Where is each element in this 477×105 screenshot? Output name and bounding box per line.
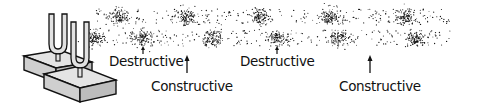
annotation-arrows xyxy=(0,0,477,105)
interference-diagram: Destructive Constructive Destructive Con… xyxy=(0,0,477,105)
arrow-constructive-1-icon xyxy=(185,55,190,73)
arrow-destructive-2-icon xyxy=(275,46,279,54)
arrow-constructive-2-icon xyxy=(368,55,373,73)
arrow-destructive-1-icon xyxy=(141,46,145,54)
